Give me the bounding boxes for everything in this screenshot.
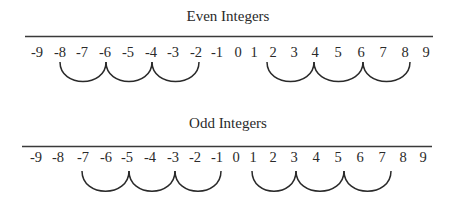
even-label: 4 — [311, 44, 319, 60]
even-label: -5 — [122, 44, 134, 60]
odd-hop-arc — [82, 171, 129, 191]
even-label: 2 — [269, 44, 276, 60]
odd-label: -7 — [77, 149, 89, 165]
even-label: 9 — [422, 44, 429, 60]
odd-label: 7 — [378, 149, 385, 165]
even-label: 1 — [250, 44, 257, 60]
odd-hop-arc — [296, 171, 344, 191]
odd-label: 6 — [356, 149, 363, 165]
odd-label: 4 — [312, 149, 320, 165]
odd-label: 8 — [399, 149, 406, 165]
even-hop-arcs — [60, 62, 410, 82]
odd-label: -5 — [121, 149, 133, 165]
even-label: 0 — [234, 44, 241, 60]
odd-number-line: -9 -8 -7 -6 -5 -4 -3 -2 -1 0 1 2 3 4 5 6… — [22, 147, 432, 192]
even-label: 3 — [290, 44, 297, 60]
even-label: -3 — [167, 44, 179, 60]
even-label: -8 — [54, 44, 66, 60]
even-label: -7 — [76, 44, 88, 60]
odd-label: -4 — [144, 149, 157, 165]
even-tick-labels: -9 -8 -7 -6 -5 -4 -3 -2 -1 0 1 2 3 4 5 6… — [31, 44, 430, 60]
odd-label: -9 — [30, 149, 42, 165]
even-label: 7 — [379, 44, 386, 60]
odd-hop-arcs — [82, 171, 391, 191]
even-hop-arc — [267, 62, 314, 82]
odd-label: 5 — [334, 149, 341, 165]
even-hop-arc — [314, 62, 363, 82]
odd-label: 0 — [232, 149, 239, 165]
even-label: -4 — [145, 44, 158, 60]
odd-label: -6 — [100, 149, 112, 165]
odd-tick-labels: -9 -8 -7 -6 -5 -4 -3 -2 -1 0 1 2 3 4 5 6… — [30, 149, 427, 165]
even-hop-arc — [363, 62, 410, 82]
odd-label: 3 — [290, 149, 297, 165]
odd-label: -2 — [189, 149, 201, 165]
even-label: 6 — [357, 44, 364, 60]
even-label: -1 — [211, 44, 223, 60]
odd-hop-arc — [344, 171, 391, 191]
odd-label: 1 — [249, 149, 256, 165]
even-label: -9 — [31, 44, 43, 60]
even-number-line: -9 -8 -7 -6 -5 -4 -3 -2 -1 0 1 2 3 4 5 6… — [25, 37, 433, 82]
even-label: -2 — [190, 44, 202, 60]
odd-label: -3 — [167, 149, 179, 165]
odd-hop-arc — [252, 171, 296, 191]
odd-hop-arc — [175, 171, 221, 191]
odd-hop-arc — [129, 171, 175, 191]
odd-label: 2 — [269, 149, 276, 165]
even-hop-arc — [60, 62, 106, 82]
even-label: -6 — [99, 44, 111, 60]
even-label: 5 — [334, 44, 341, 60]
number-lines-canvas: -9 -8 -7 -6 -5 -4 -3 -2 -1 0 1 2 3 4 5 6… — [0, 0, 452, 204]
even-hop-arc — [152, 62, 199, 82]
even-hop-arc — [106, 62, 152, 82]
odd-label: -1 — [211, 149, 223, 165]
odd-label: 9 — [419, 149, 426, 165]
odd-label: -8 — [52, 149, 64, 165]
even-label: 8 — [401, 44, 408, 60]
